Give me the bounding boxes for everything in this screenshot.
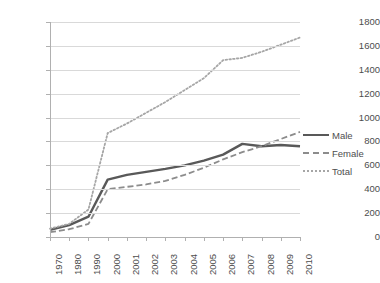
- y-axis-tick-label: 1800: [336, 17, 380, 27]
- x-axis-tick-label: 2009: [285, 254, 295, 275]
- x-axis-tick-mark: [165, 237, 166, 241]
- y-axis-tick-label: 1000: [336, 113, 380, 123]
- y-axis-tick-label: 0: [336, 232, 380, 242]
- x-axis-tick-mark: [300, 237, 301, 241]
- line-chart: 180016001400120010008006004002000 197019…: [0, 0, 380, 283]
- gridline: [50, 141, 300, 142]
- legend-item-female[interactable]: Female: [303, 144, 379, 162]
- y-axis-tick-label: 1200: [336, 89, 380, 99]
- y-axis-tick-mark: [46, 46, 50, 47]
- legend-item-male[interactable]: Male: [303, 126, 379, 144]
- y-axis-tick-label: 1600: [336, 41, 380, 51]
- plot-area: [50, 22, 300, 237]
- gridline: [50, 22, 300, 23]
- gridline: [50, 189, 300, 190]
- y-axis-line: [50, 22, 51, 238]
- legend-label: Total: [332, 166, 352, 177]
- x-axis-tick-mark: [88, 237, 89, 241]
- x-axis-tick-label: 2010: [304, 254, 314, 275]
- y-axis-tick-mark: [46, 189, 50, 190]
- y-axis-tick-mark: [46, 94, 50, 95]
- series-lines: [50, 22, 300, 237]
- x-axis-tick-label: 2001: [131, 254, 141, 275]
- x-axis-tick-label: 2002: [150, 254, 160, 275]
- x-axis-tick-label: 1980: [73, 254, 83, 275]
- x-axis-tick-mark: [185, 237, 186, 241]
- gridline: [50, 165, 300, 166]
- legend-swatch-total-icon: [303, 166, 329, 176]
- x-axis-tick-label: 2008: [266, 254, 276, 275]
- x-axis-tick-mark: [127, 237, 128, 241]
- x-axis-tick-mark: [146, 237, 147, 241]
- x-axis-tick-mark: [262, 237, 263, 241]
- series-line-male: [50, 144, 300, 230]
- x-axis-tick-mark: [69, 237, 70, 241]
- y-axis-tick-mark: [46, 141, 50, 142]
- legend-item-total[interactable]: Total: [303, 162, 379, 180]
- y-axis-tick-mark: [46, 22, 50, 23]
- x-axis-tick-label: 1970: [54, 254, 64, 275]
- x-axis-tick-label: 2003: [169, 254, 179, 275]
- x-axis-tick-mark: [108, 237, 109, 241]
- x-axis-tick-label: 2007: [246, 254, 256, 275]
- y-axis-tick-mark: [46, 118, 50, 119]
- series-line-total: [50, 38, 300, 229]
- x-axis-tick-label: 2006: [227, 254, 237, 275]
- x-axis-tick-label: 2005: [208, 254, 218, 275]
- gridline: [50, 94, 300, 95]
- y-axis-tick-label: 400: [336, 184, 380, 194]
- y-axis-tick-label: 1400: [336, 65, 380, 75]
- y-axis-tick-mark: [46, 213, 50, 214]
- legend-swatch-female-icon: [303, 148, 329, 158]
- legend-label: Male: [332, 130, 353, 141]
- x-axis-tick-mark: [223, 237, 224, 241]
- gridline: [50, 46, 300, 47]
- gridline: [50, 118, 300, 119]
- gridline: [50, 70, 300, 71]
- y-axis-tick-mark: [46, 70, 50, 71]
- legend: MaleFemaleTotal: [303, 126, 379, 180]
- legend-label: Female: [332, 148, 364, 159]
- y-axis-tick-label: 200: [336, 208, 380, 218]
- gridline: [50, 213, 300, 214]
- x-axis-tick-label: 1990: [92, 254, 102, 275]
- y-axis-tick-mark: [46, 165, 50, 166]
- x-axis-tick-mark: [50, 237, 51, 241]
- legend-swatch-male-icon: [303, 130, 329, 140]
- x-axis-tick-label: 2000: [112, 254, 122, 275]
- x-axis-tick-mark: [281, 237, 282, 241]
- x-axis-tick-label: 2004: [189, 254, 199, 275]
- x-axis-tick-mark: [242, 237, 243, 241]
- x-axis-tick-mark: [204, 237, 205, 241]
